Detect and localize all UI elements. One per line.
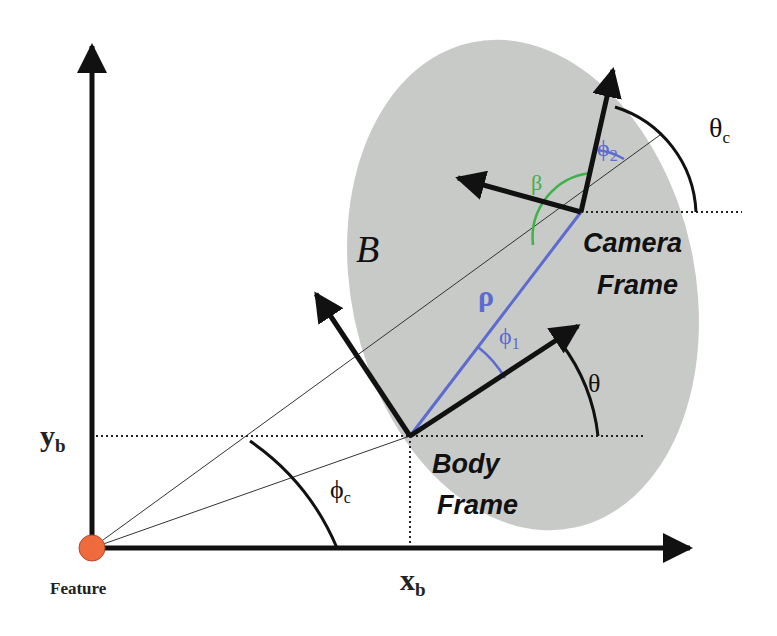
beta-label: β [531,170,542,195]
body-frame-label-line1: Body [432,449,501,479]
theta-label: θ [588,369,600,398]
phi-c-arc [250,441,337,548]
rho-label: ρ [478,279,494,312]
camera-frame-label-line2: Frame [597,270,678,300]
phi-c-label: ϕc [330,475,351,506]
feature-label: Feature [50,579,107,598]
xb-label: xb [400,563,426,600]
body-frame-label-line2: Frame [437,490,518,520]
yb-label: yb [40,419,66,456]
body-set-label: B [356,228,379,270]
feature-point [79,535,105,561]
camera-frame-label-line1: Camera [583,228,682,258]
ray-to-body [92,436,410,548]
theta-c-label: θc [709,112,730,147]
frames-geometry-diagram: Feature xb yb ϕc θ θc ρ ϕ1 ϕ2 β B Camera… [0,0,777,636]
